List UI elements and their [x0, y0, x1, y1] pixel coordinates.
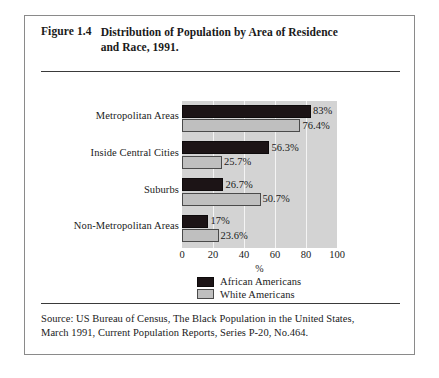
bar-group-1: 56.3% 25.7% [182, 138, 337, 175]
chart-area: Metropolitan Areas 83% 76.4% Inside Cent… [25, 78, 414, 300]
bar-group-2: 26.7% 50.7% [182, 175, 337, 212]
title-divider-rule [41, 71, 400, 72]
bar-african-americans-1 [182, 141, 269, 154]
x-tick-60: 60 [270, 249, 281, 260]
legend-item-african-americans: African Americans [197, 276, 397, 288]
bar-value-white-americans-3: 23.6% [221, 229, 248, 242]
x-tick-20: 20 [208, 249, 219, 260]
bar-value-white-americans-0: 76.4% [303, 119, 330, 132]
bar-white-americans-3 [182, 229, 219, 242]
figure-box: Figure 1.4 Distribution of Population by… [24, 15, 415, 355]
bar-value-african-americans-3: 17% [211, 214, 230, 227]
source-note: Source: US Bureau of Census, The Black P… [41, 312, 401, 340]
figure-title-line-2: and Race, 1991. [101, 41, 179, 53]
figure-title-line-1: Distribution of Population by Area of Re… [101, 26, 338, 38]
bar-african-americans-2 [182, 178, 223, 191]
bar-african-americans-0 [182, 105, 311, 118]
bar-group-0: 83% 76.4% [182, 101, 337, 138]
legend-swatch-white-americans [197, 289, 214, 299]
chart-row-inside-central-cities: Inside Central Cities 56.3% 25.7% [25, 138, 414, 175]
chart-row-non-metropolitan-areas: Non-Metropolitan Areas 17% 23.6% [25, 211, 414, 248]
category-label-1: Inside Central Cities [91, 147, 179, 158]
x-tick-80: 80 [301, 249, 312, 260]
figure-title: Distribution of Population by Area of Re… [101, 25, 338, 54]
figure-number: Figure 1.4 [41, 25, 92, 37]
bar-value-african-americans-0: 83% [313, 104, 332, 117]
bar-value-white-americans-1: 25.7% [224, 155, 251, 168]
x-tick-100: 100 [329, 249, 345, 260]
chart-row-suburbs: Suburbs 26.7% 50.7% [25, 175, 414, 212]
category-label-3: Non-Metropolitan Areas [74, 220, 179, 231]
chart-row-metropolitan-areas: Metropolitan Areas 83% 76.4% [25, 101, 414, 138]
legend-label-african-americans: African Americans [220, 276, 301, 287]
category-label-2: Suburbs [144, 184, 179, 195]
figure-title-block: Figure 1.4 Distribution of Population by… [41, 25, 401, 54]
source-divider-rule [41, 303, 400, 304]
bar-african-americans-3 [182, 215, 208, 228]
bar-value-african-americans-2: 26.7% [226, 178, 253, 191]
x-tick-40: 40 [239, 249, 250, 260]
bar-white-americans-2 [182, 193, 261, 206]
legend-swatch-african-americans [197, 277, 214, 287]
source-note-line-2: March 1991, Current Population Reports, … [41, 326, 401, 340]
category-label-0: Metropolitan Areas [96, 110, 179, 121]
legend-item-white-americans: White Americans [197, 289, 397, 301]
bar-white-americans-1 [182, 156, 222, 169]
bar-group-3: 17% 23.6% [182, 211, 337, 248]
x-axis-title: % [182, 263, 337, 274]
bar-white-americans-0 [182, 119, 300, 132]
source-note-line-1: Source: US Bureau of Census, The Black P… [41, 312, 401, 326]
legend-label-white-americans: White Americans [220, 289, 295, 300]
bar-value-white-americans-2: 50.7% [263, 192, 290, 205]
chart-legend: African Americans White Americans [197, 276, 397, 301]
x-tick-0: 0 [179, 249, 184, 260]
bar-value-african-americans-1: 56.3% [272, 141, 299, 154]
